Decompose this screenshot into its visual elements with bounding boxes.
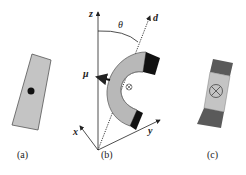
magnetic-moment-arrow: [97, 77, 110, 80]
magnet-pole-top: [143, 52, 160, 75]
panel-a-label: (a): [17, 149, 28, 161]
d-axis: [98, 16, 150, 150]
panel-b: z x y d θ μ (b): [72, 8, 160, 161]
figure-canvas: (a) z x y d θ μ (b): [0, 0, 246, 175]
panel-c: (c): [197, 59, 233, 161]
theta-arc: [98, 31, 138, 42]
panel-a: (a): [12, 54, 51, 161]
x-axis: [80, 126, 98, 150]
y-axis-label: y: [147, 125, 153, 136]
panel-b-label: (b): [101, 149, 113, 161]
dot-out-of-page-icon: [28, 88, 35, 95]
panel-c-label: (c): [207, 149, 218, 161]
mu-label: μ: [82, 68, 89, 79]
theta-label: θ: [118, 19, 123, 30]
z-axis-label: z: [88, 8, 93, 19]
cross-into-page-icon: [126, 84, 132, 90]
d-axis-label: d: [153, 12, 159, 23]
x-axis-label: x: [72, 126, 78, 137]
